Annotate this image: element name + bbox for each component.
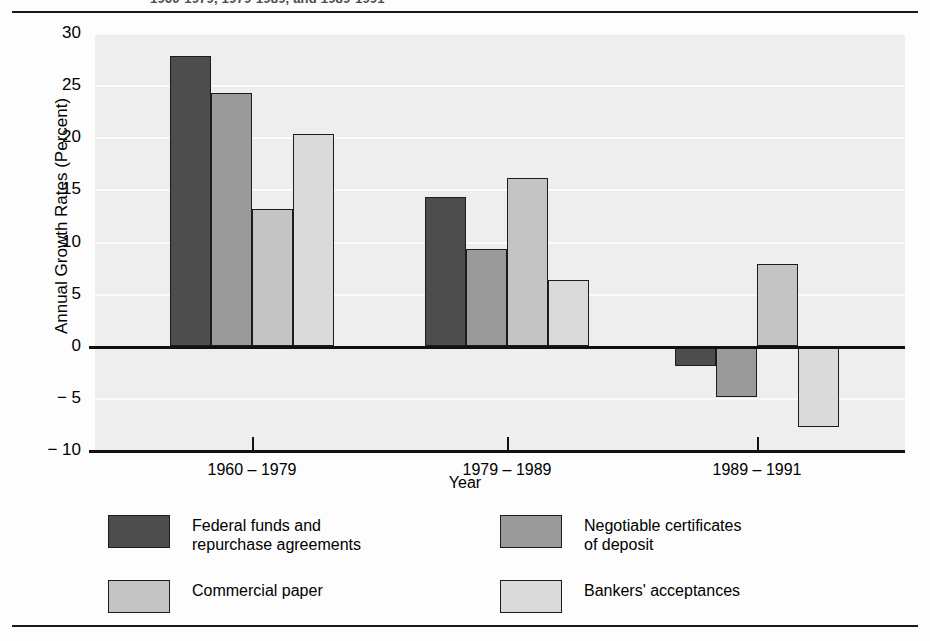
legend-swatch (500, 580, 562, 613)
gridline (95, 85, 905, 87)
figure-container: 1960-1979, 1979-1989, and 1989-1991 Annu… (0, 0, 930, 641)
y-tick-label: 30 (19, 24, 81, 41)
legend-swatch (108, 580, 170, 613)
gridline (95, 33, 905, 35)
x-tick-mark (757, 437, 759, 450)
y-tick-label: − 5 (19, 389, 81, 406)
bar (757, 264, 798, 345)
bar (425, 197, 466, 346)
bar (293, 134, 334, 346)
legend-item: Commercial paper (108, 580, 323, 613)
bar (548, 280, 589, 346)
legend-label: Negotiable certificates of deposit (584, 515, 741, 554)
bar (252, 209, 293, 346)
bar (211, 93, 252, 345)
legend-item: Negotiable certificates of deposit (500, 515, 741, 554)
legend-item: Federal funds and repurchase agreements (108, 515, 361, 554)
y-tick-label: 25 (19, 76, 81, 93)
y-tick-label: 10 (19, 233, 81, 250)
x-axis-title: Year (0, 474, 930, 492)
y-tick-label: 15 (19, 180, 81, 197)
chart-plot-wrapper: Annual Growth Rates (Percent) 3025201510… (0, 0, 930, 500)
baseline-axis-line (89, 450, 905, 453)
legend-label: Commercial paper (192, 580, 323, 600)
legend-label: Bankers' acceptances (584, 580, 740, 600)
bottom-rule-divider (12, 625, 918, 627)
bar (466, 249, 507, 346)
zero-axis-line (89, 346, 905, 349)
y-tick-label: 20 (19, 128, 81, 145)
x-tick-mark (507, 437, 509, 450)
bar (507, 178, 548, 346)
chart-legend: Federal funds and repurchase agreementsN… (0, 505, 930, 620)
legend-item: Bankers' acceptances (500, 580, 740, 613)
plot-area (95, 33, 905, 450)
y-tick-label: − 10 (19, 441, 81, 458)
gridline (95, 398, 905, 400)
legend-swatch (500, 515, 562, 548)
y-tick-label: 0 (19, 337, 81, 354)
legend-swatch (108, 515, 170, 548)
legend-label: Federal funds and repurchase agreements (192, 515, 361, 554)
bar (716, 346, 757, 397)
bar (170, 56, 211, 346)
x-tick-mark (252, 437, 254, 450)
y-tick-label: 5 (19, 285, 81, 302)
bar (798, 346, 839, 427)
